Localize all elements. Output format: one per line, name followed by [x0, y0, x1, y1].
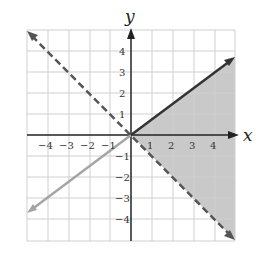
svg-text:2: 2: [168, 140, 174, 151]
svg-text:3: 3: [119, 67, 125, 78]
svg-text:−3: −3: [59, 140, 74, 151]
svg-text:1: 1: [119, 109, 125, 120]
svg-text:−3: −3: [115, 193, 130, 204]
svg-text:4: 4: [210, 140, 216, 151]
svg-text:1: 1: [147, 140, 153, 151]
svg-text:−2: −2: [80, 140, 95, 151]
y-axis-label: y: [124, 6, 135, 26]
svg-text:−1: −1: [115, 151, 130, 162]
x-tick-labels: −4 −3 −2 −1 1 2 3 4: [38, 140, 216, 151]
svg-text:−2: −2: [115, 172, 130, 183]
svg-text:3: 3: [189, 140, 195, 151]
svg-text:4: 4: [119, 46, 125, 57]
svg-text:2: 2: [119, 88, 125, 99]
svg-text:−1: −1: [101, 140, 116, 151]
x-axis-label: x: [243, 125, 253, 145]
svg-text:−4: −4: [115, 214, 130, 225]
coordinate-graph: x y −4 −3 −2 −1 1 2 3 4 4 3 2 1 −1 −2 −3…: [0, 0, 256, 256]
svg-text:−4: −4: [38, 140, 53, 151]
